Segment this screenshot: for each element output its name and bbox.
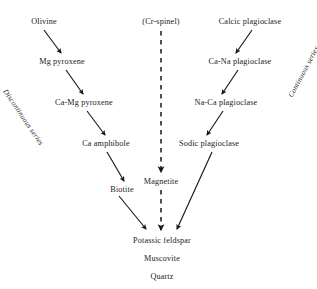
node-calcic-plagioclase: Calcic plagioclase — [219, 18, 282, 26]
node-ca-mg-pyroxene: Ca-Mg pyroxene — [55, 99, 113, 107]
node-mg-pyroxene: Mg pyroxene — [39, 58, 85, 66]
arrow-ca-amphibole-to-biotite — [107, 152, 124, 181]
node-ca-amphibole: Ca amphibole — [82, 140, 130, 148]
node-magnetite: Magnetite — [144, 178, 179, 186]
arrow-na-ca-to-sodic-plagioclase — [207, 111, 223, 135]
node-quartz: Quartz — [150, 273, 173, 281]
node-potassic-feldspar: Potassic feldspar — [133, 237, 191, 245]
node-ca-na-plagioclase: Ca-Na plagioclase — [209, 58, 272, 66]
node-cr-spinel: (Cr-spinel) — [142, 18, 179, 26]
arrow-ca-mg-pyroxene-to-ca-amphibole — [87, 111, 105, 135]
arrow-biotite-to-potassic-feldspar — [119, 196, 146, 229]
arrow-sodic-plagioclase-to-potassic-feldspar — [177, 152, 212, 229]
arrow-ca-na-to-na-ca-plagioclase — [222, 70, 238, 94]
arrow-olivine-to-mg-pyroxene — [44, 30, 61, 53]
node-na-ca-plagioclase: Na-Ca plagioclase — [195, 99, 258, 107]
node-sodic-plagioclase: Sodic plagioclase — [179, 140, 239, 148]
bowens-reaction-series-diagram: Olivine Mg pyroxene Ca-Mg pyroxene Ca am… — [0, 0, 317, 289]
node-biotite: Biotite — [110, 186, 133, 194]
arrow-mg-pyroxene-to-ca-mg-pyroxene — [66, 70, 83, 94]
node-muscovite: Muscovite — [144, 255, 180, 263]
arrow-calcic-to-ca-na-plagioclase — [236, 30, 252, 53]
arrow-layer — [0, 0, 317, 289]
node-olivine: Olivine — [31, 18, 57, 26]
